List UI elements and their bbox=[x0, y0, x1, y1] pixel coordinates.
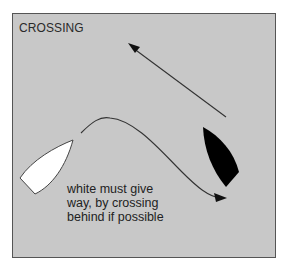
black-boat-icon bbox=[203, 127, 239, 187]
straight-arrow-icon bbox=[128, 43, 226, 117]
diagram-caption: white must give way, by crossing behind … bbox=[67, 182, 164, 224]
caption-line: white must give bbox=[67, 182, 164, 196]
diagram-canvas bbox=[0, 0, 287, 271]
caption-line: behind if possible bbox=[67, 210, 164, 224]
white-boat-icon bbox=[20, 140, 73, 194]
diagram-title: CROSSING bbox=[19, 21, 84, 35]
caption-line: way, by crossing bbox=[67, 196, 164, 210]
